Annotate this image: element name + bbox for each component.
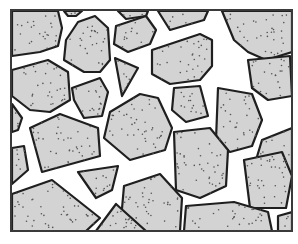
speck-dot [193, 105, 195, 107]
speck-dot [264, 71, 266, 73]
speck-dot [252, 65, 254, 67]
speck-dot [145, 130, 147, 132]
speck-dot [212, 183, 214, 185]
speck-dot [151, 129, 153, 131]
speck-dot [152, 31, 154, 33]
speck-dot [162, 50, 164, 52]
speck-dot [63, 211, 65, 213]
speck-dot [179, 153, 181, 155]
speck-dot [60, 88, 62, 90]
speck-dot [129, 197, 131, 199]
speck-dot [17, 123, 19, 125]
speck-dot [272, 156, 274, 158]
speck-dot [95, 193, 97, 195]
speck-dot [30, 105, 32, 107]
speck-dot [123, 227, 125, 229]
speck-dot [97, 113, 99, 115]
speck-dot [125, 196, 127, 198]
speck-dot [33, 132, 35, 134]
speck-dot [272, 14, 274, 16]
speck-dot [258, 187, 260, 189]
speck-dot [283, 161, 285, 163]
speck-dot [64, 98, 66, 100]
speck-dot [127, 83, 129, 85]
speck-dot [69, 197, 71, 199]
speck-dot [123, 73, 125, 75]
speck-dot [72, 221, 74, 223]
speck-dot [72, 150, 74, 152]
speck-dot [104, 38, 106, 40]
speck-dot [85, 48, 87, 50]
speck-dot [121, 128, 123, 130]
speck-dot [176, 152, 178, 154]
speck-dot [253, 208, 255, 210]
speck-dot [47, 190, 49, 192]
speck-dot [180, 61, 182, 63]
speck-dot [200, 155, 202, 157]
speck-dot [229, 18, 231, 20]
speck-dot [220, 154, 222, 156]
speck-dot [185, 164, 187, 166]
speck-dot [125, 219, 127, 221]
speck-dot [260, 158, 262, 160]
speck-dot [20, 33, 22, 35]
speck-dot [222, 173, 224, 175]
speck-dot [152, 153, 154, 155]
speck-dot [211, 152, 213, 154]
speck-dot [253, 86, 255, 88]
speck-dot [98, 108, 100, 110]
speck-dot [261, 165, 263, 167]
speck-dot [112, 215, 114, 217]
speck-dot [142, 134, 144, 136]
speck-dot [243, 132, 245, 134]
speck-dot [54, 15, 56, 17]
speck-dot [52, 184, 54, 186]
speck-dot [216, 155, 218, 157]
speck-dot [194, 59, 196, 61]
speck-dot [34, 145, 36, 147]
speck-dot [124, 63, 126, 65]
speck-dot [93, 151, 95, 153]
speck-dot [81, 145, 83, 147]
speck-dot [52, 227, 54, 229]
speck-dot [249, 185, 251, 187]
speck-dot [255, 135, 257, 137]
speck-dot [225, 92, 227, 94]
speck-dot [88, 90, 90, 92]
speck-dot [125, 32, 127, 34]
speck-dot [257, 128, 259, 130]
speck-dot [283, 22, 285, 24]
speck-dot [168, 46, 170, 48]
speck-dot [274, 54, 276, 56]
speck-dot [33, 25, 35, 27]
speck-dot [218, 209, 220, 211]
speck-dot [74, 12, 76, 14]
speck-dot [32, 94, 34, 96]
speck-dot [167, 202, 169, 204]
speck-dot [217, 165, 219, 167]
speck-dot [137, 148, 139, 150]
speck-dot [92, 214, 94, 216]
speck-dot [18, 159, 20, 161]
speck-dot [164, 220, 166, 222]
speck-dot [150, 215, 152, 217]
speck-dot [29, 43, 31, 45]
speck-dot [41, 122, 43, 124]
speck-dot [180, 72, 182, 74]
speck-dot [260, 220, 262, 222]
speck-dot [257, 216, 259, 218]
speck-dot [124, 201, 126, 203]
speck-dot [106, 29, 108, 31]
speck-dot [55, 35, 57, 37]
speck-dot [84, 159, 86, 161]
speck-dot [183, 156, 185, 158]
speck-dot [48, 227, 50, 229]
speck-dot [237, 27, 239, 29]
speck-dot [262, 140, 264, 142]
speck-dot [76, 88, 78, 90]
speck-dot [144, 138, 146, 140]
speck-dot [133, 108, 135, 110]
speck-dot [237, 147, 239, 149]
speck-dot [265, 51, 267, 53]
speck-dot [71, 59, 73, 61]
